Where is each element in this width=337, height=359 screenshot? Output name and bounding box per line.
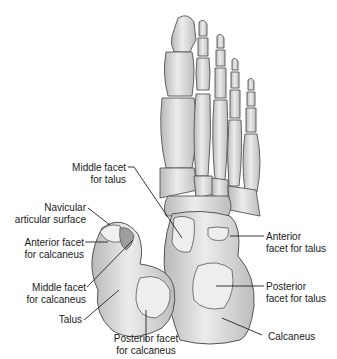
label-posterior-facet-for-talus: Posterior facet for talus	[266, 281, 326, 304]
label-middle-facet-for-talus: Middle facet for talus	[56, 162, 126, 185]
label-talus: Talus	[30, 314, 82, 326]
label-posterior-facet-for-calcaneus: Posterior facet for calcaneus	[100, 333, 192, 356]
label-navicular-articular-surface: Navicular articular surface	[4, 202, 86, 225]
label-anterior-facet-for-calcaneus: Anterior facet for calcaneus	[4, 237, 84, 260]
toe-bones	[161, 16, 260, 192]
talus-bone	[92, 222, 175, 336]
label-anterior-facet-for-talus: Anterior facet for talus	[266, 231, 326, 254]
label-calcaneus: Calcaneus	[268, 331, 315, 343]
foot-bones-diagram	[0, 0, 337, 359]
middle-facet-for-talus-surface	[172, 216, 195, 252]
label-middle-facet-for-calcaneus: Middle facet for calcaneus	[4, 282, 86, 305]
anterior-facet-for-talus-surface	[208, 227, 229, 241]
